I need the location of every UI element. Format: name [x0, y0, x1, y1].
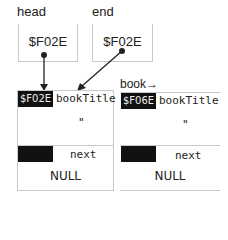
head-arrow — [40, 52, 48, 91]
node-2: $F06E bookTitle " next NULL — [120, 92, 220, 191]
node-2-next-cell — [121, 146, 156, 162]
end-arrow — [77, 48, 125, 91]
node-1-title-value: " — [78, 116, 85, 129]
node-2-next-field: next — [175, 149, 202, 162]
node-1-title-field: bookTitle — [56, 92, 116, 105]
node-1-next-value: NULL — [18, 169, 113, 183]
node-1-address-cell: $F02E — [18, 91, 53, 107]
node-2-title-field: bookTitle — [159, 94, 219, 107]
node-2-title-value: " — [182, 118, 189, 131]
node-2-address-cell: $F06E — [121, 93, 156, 109]
node-1-next-field: next — [70, 148, 97, 161]
node-2-next-value: NULL — [120, 169, 220, 183]
node-1-next-cell — [18, 146, 53, 162]
node-2-prefix-label: book→ — [120, 77, 158, 91]
node-1: $F02E bookTitle " next NULL — [17, 90, 114, 191]
